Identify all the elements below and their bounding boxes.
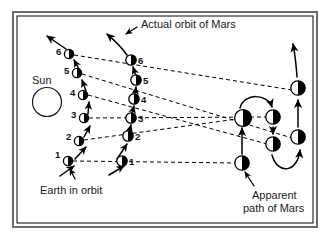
apparent-body-5: [291, 130, 305, 144]
apparent-path-label-line2: path of Mars: [243, 202, 305, 214]
earth-in-orbit-label: Earth in orbit: [40, 184, 102, 196]
apparent-path-label-line1: Apparent: [252, 189, 297, 201]
mars-body-2: 2: [123, 131, 140, 142]
sun-icon: [33, 88, 62, 117]
earth-label-6: 6: [56, 46, 61, 57]
sun-label: Sun: [32, 74, 52, 86]
mars-label-2: 2: [135, 131, 140, 142]
mars-label-4: 4: [141, 94, 147, 105]
retrograde-motion-figure: Sun 1 2 3 4: [0, 0, 330, 236]
earth-label-2: 2: [66, 131, 71, 142]
earth-label-3: 3: [71, 109, 76, 120]
mars-body-3: 3: [126, 113, 143, 124]
direction-arrow-icon-earth-3-4: [88, 102, 89, 114]
earth-label-4: 4: [70, 87, 76, 98]
mars-label-5: 5: [143, 75, 149, 86]
apparent-body-2: [235, 110, 252, 127]
mars-body-6: 6: [126, 55, 143, 66]
diagram-canvas: Sun 1 2 3 4: [0, 0, 330, 236]
mars-body-1: 1: [117, 156, 135, 167]
earth-label-1: 1: [55, 149, 61, 160]
apparent-body-1: [235, 156, 249, 170]
mars-body-5: 5: [131, 75, 149, 86]
mars-label-1: 1: [129, 156, 135, 167]
apparent-body-4: [266, 137, 280, 151]
mars-label-3: 3: [138, 113, 143, 124]
mars-body-4: 4: [129, 94, 147, 105]
apparent-body-6: [291, 81, 305, 95]
actual-orbit-label: Actual orbit of Mars: [141, 18, 236, 30]
apparent-body-3: [266, 110, 280, 124]
mars-label-6: 6: [138, 55, 143, 66]
earth-label-5: 5: [64, 65, 70, 76]
